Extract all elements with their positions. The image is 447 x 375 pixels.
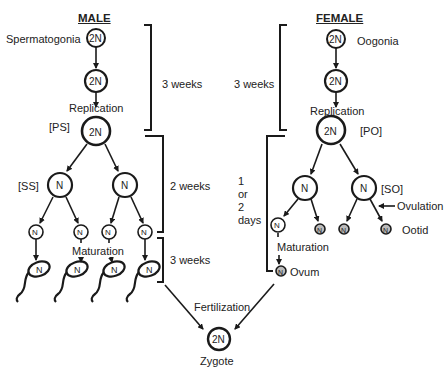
female-maturation-label: Maturation [277,241,329,253]
female-replication-label: Replication [310,105,364,117]
female-duration-2-line3: 2 [238,201,244,213]
primary-oocyte-cell: 2N [324,126,337,138]
female-lineage [267,25,395,276]
primary-oocyte-label: [PO] [360,125,382,137]
male-replicating-cell: 2N [89,76,102,88]
oogonium-cell: 2N [329,34,342,46]
spermatogonia-label: Spermatogonia [6,33,81,45]
sperm-1: N [36,264,43,276]
oogonia-label: Oogonia [357,35,399,47]
polar-body-1: N [317,225,322,237]
sperm-2: N [74,264,81,276]
polar-body-3: N [383,225,388,237]
spermatogonium-cell: 2N [89,33,102,45]
secondary-spermatocyte-label: [SS] [18,180,39,192]
female-replicating-cell: 2N [329,76,342,88]
polar-body-2: N [341,225,346,237]
fertilization-label: Fertilization [194,301,250,313]
secondary-oocyte-left: N [301,183,308,195]
female-duration-1: 3 weeks [234,78,274,90]
zygote-cell: 2N [212,334,225,346]
primary-spermatocyte-label: [PS] [49,121,70,133]
female-duration-2-line1: 1 [238,175,244,187]
male-replication-label: Replication [69,102,123,114]
female-duration-2-line4: days [238,214,261,226]
secondary-oocyte-label: [SO] [381,183,403,195]
zygote-label: Zygote [200,355,234,367]
male-title: MALE [78,12,111,24]
ootid-main-cell: N [274,220,280,232]
female-duration-2-line2: or [238,188,248,200]
male-duration-1: 3 weeks [162,78,202,90]
spermatid-2: N [77,227,83,239]
male-maturation-label: Maturation [72,245,124,257]
male-lineage [17,25,163,302]
sperm-3: N [111,264,118,276]
ovum-cell: N [278,267,283,279]
spermatid-1: N [32,227,38,239]
ovum-label: Ovum [290,266,319,278]
secondary-spermatocyte-left: N [56,180,63,192]
spermatid-4: N [141,227,147,239]
ootid-label: Ootid [402,224,428,236]
gametogenesis-diagram: MALE Spermatogonia 2N 2N Replication [PS… [0,0,447,375]
secondary-oocyte-right: N [360,183,367,195]
female-title: FEMALE [316,12,363,24]
diagram-graphics [0,0,447,375]
male-duration-2: 2 weeks [170,180,210,192]
male-duration-3: 3 weeks [170,254,210,266]
secondary-spermatocyte-right: N [121,180,128,192]
ovulation-label: Ovulation [397,200,443,212]
spermatid-3: N [105,227,111,239]
sperm-4: N [146,264,153,276]
primary-spermatocyte-cell: 2N [89,127,102,139]
